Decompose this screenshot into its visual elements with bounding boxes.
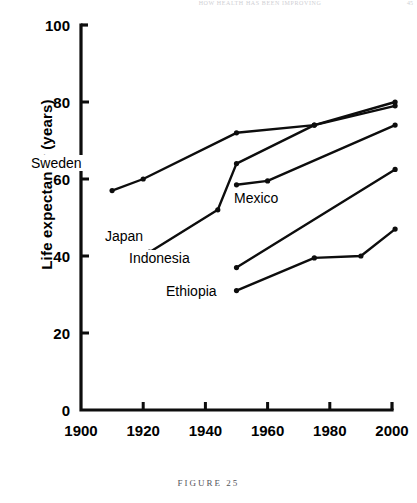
figure-page: HOW HEALTH HAS BEEN IMPROVING 45 Life ex… [0,0,417,503]
chart-plot-area [0,0,417,503]
series-label-ethiopia: Ethiopia [165,283,218,299]
series-label-sweden: Sweden [30,155,83,171]
figure-caption: FIGURE 25 [0,478,417,488]
series-label-mexico: Mexico [233,190,279,206]
series-label-japan: Japan [104,228,144,244]
axis-lines [81,25,392,410]
series-label-indonesia: Indonesia [128,250,191,266]
